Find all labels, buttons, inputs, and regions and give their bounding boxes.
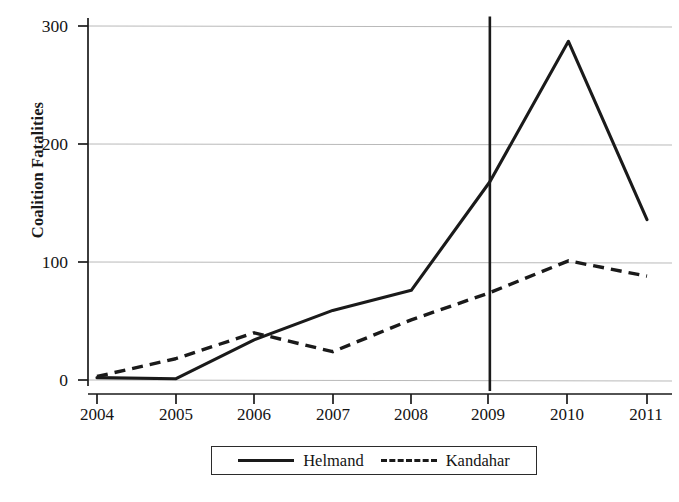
x-tick-label-2008: 2008 (379, 405, 443, 425)
y-axis (78, 18, 88, 386)
x-tick-label-2007: 2007 (301, 405, 365, 425)
plot-area (0, 0, 679, 502)
x-tick-label-2006: 2006 (222, 405, 286, 425)
legend-label-kandahar: Kandahar (446, 451, 510, 471)
x-tick-label-2010: 2010 (535, 405, 599, 425)
series-line-helmand (97, 41, 647, 378)
x-tick-label-2009: 2009 (456, 405, 520, 425)
x-tick-label-2004: 2004 (65, 405, 129, 425)
legend-dashed-line-icon (381, 459, 437, 462)
x-tick-label-2011: 2011 (614, 405, 678, 425)
legend-entry-helmand: Helmand (238, 451, 363, 471)
legend-label-helmand: Helmand (303, 451, 363, 471)
line-chart: Coalition Fatalities 300 200 100 0 (0, 0, 679, 502)
series-line-kandahar (97, 261, 647, 377)
legend-solid-line-icon (238, 459, 294, 462)
x-tick-label-2005: 2005 (144, 405, 208, 425)
x-axis (88, 394, 672, 404)
legend-entry-kandahar: Kandahar (381, 451, 510, 471)
chart-legend: Helmand Kandahar (211, 446, 537, 475)
